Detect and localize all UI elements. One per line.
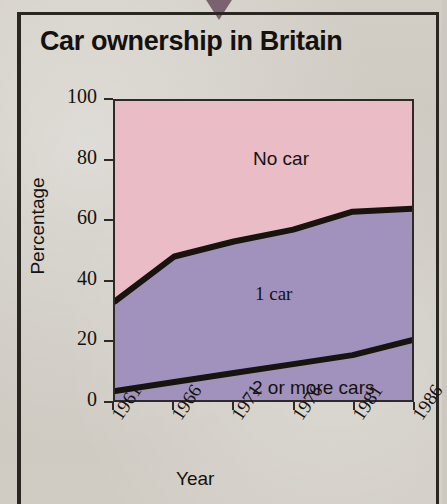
plot-area	[113, 99, 414, 402]
y-tick-label: 20	[41, 327, 97, 350]
y-tick-mark	[104, 159, 113, 161]
y-tick-label: 100	[41, 85, 97, 108]
area-label-two-or-more-cars: 2 or more cars	[252, 377, 374, 399]
x-axis-label: Year	[176, 468, 214, 490]
y-tick-label: 0	[41, 388, 97, 411]
y-tick-mark	[104, 280, 113, 282]
pointer-letter: D	[204, 0, 232, 2]
area-label-no-car: No car	[253, 148, 309, 170]
y-tick-mark	[104, 98, 113, 100]
y-tick-label: 80	[41, 146, 97, 169]
chart-title: Car ownership in Britain	[40, 26, 420, 57]
area-label-one-car: 1 car	[255, 283, 292, 305]
y-tick-label: 60	[41, 206, 97, 229]
area-chart-svg	[115, 101, 412, 400]
y-tick-label: 40	[41, 267, 97, 290]
y-tick-mark	[104, 340, 113, 342]
figure-frame-right-edge	[436, 12, 439, 504]
y-tick-mark	[104, 219, 113, 221]
